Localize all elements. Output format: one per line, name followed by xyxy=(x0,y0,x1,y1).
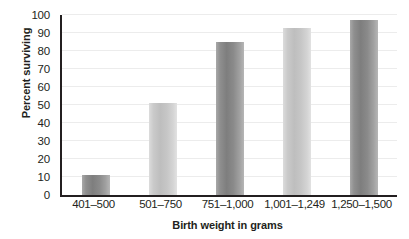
y-tick-label: 30 xyxy=(38,135,50,147)
x-tick-label: 751–1,000 xyxy=(202,198,254,210)
y-tick-label: 70 xyxy=(38,63,50,75)
x-tick-label: 1,001–1,249 xyxy=(264,198,325,210)
x-axis-tick-labels: 401–500501–750751–1,0001,001–1,2491,250–… xyxy=(60,198,395,216)
x-axis-title: Birth weight in grams xyxy=(60,219,395,231)
bar[interactable] xyxy=(216,42,244,195)
y-tick-label: 0 xyxy=(44,189,50,201)
x-tick-label: 501–750 xyxy=(139,198,182,210)
y-tick-label: 50 xyxy=(38,99,50,111)
bar-series xyxy=(62,15,397,195)
bar[interactable] xyxy=(82,175,110,195)
y-tick-label: 60 xyxy=(38,81,50,93)
y-tick-label: 20 xyxy=(38,153,50,165)
bar[interactable] xyxy=(350,20,378,195)
plot-area xyxy=(60,15,397,197)
bar[interactable] xyxy=(283,28,311,195)
y-tick-label: 90 xyxy=(38,27,50,39)
y-tick-label: 40 xyxy=(38,117,50,129)
x-tick-label: 1,250–1,500 xyxy=(331,198,392,210)
bar-chart: Percent surviving 0102030405060708090100… xyxy=(0,0,409,239)
y-axis-tick-labels: 0102030405060708090100 xyxy=(0,15,55,195)
y-tick-label: 10 xyxy=(38,171,50,183)
x-tick-label: 401–500 xyxy=(72,198,115,210)
bar[interactable] xyxy=(149,103,177,195)
y-tick-label: 80 xyxy=(38,45,50,57)
y-tick-label: 100 xyxy=(31,9,50,21)
